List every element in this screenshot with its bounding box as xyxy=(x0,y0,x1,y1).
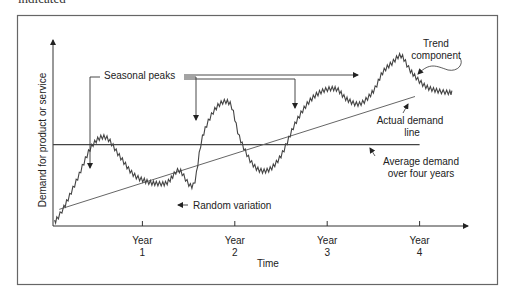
annotation-actual-line1: Actual demand xyxy=(377,115,444,126)
annotation-average-line2: over four years xyxy=(388,168,455,179)
x-tick-label-2-number: 2 xyxy=(232,247,238,258)
x-tick-label-4-year: Year xyxy=(409,235,430,246)
x-tick-label-4-number: 4 xyxy=(417,247,423,258)
y-axis-label: Demand for product or service xyxy=(37,72,48,207)
annotation-trend-line1: Trend xyxy=(423,38,449,49)
annotation-average-line1: Average demand xyxy=(383,156,459,167)
annotation-random-variation: Random variation xyxy=(193,200,271,211)
x-tick-label-1-year: Year xyxy=(132,235,153,246)
x-axis-label: Time xyxy=(257,258,279,269)
x-tick-label-3-number: 3 xyxy=(324,247,330,258)
annotation-seasonal-peaks: Seasonal peaks xyxy=(104,70,175,81)
x-tick-label-2-year: Year xyxy=(225,235,246,246)
x-tick-label-1-number: 1 xyxy=(140,247,146,258)
demand-chart: Demand for product or service Time Year1… xyxy=(0,0,512,305)
annotation-actual-line2: line xyxy=(404,127,420,138)
annotation-trend-line2: component xyxy=(411,50,461,61)
x-tick-label-3-year: Year xyxy=(317,235,338,246)
